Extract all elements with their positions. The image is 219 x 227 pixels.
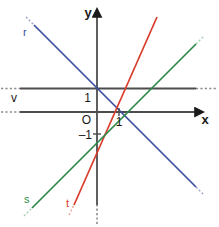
line-s-solid (32, 44, 196, 208)
line-r-dash-start (26, 17, 34, 25)
y-axis-label: y (84, 5, 92, 20)
y-tick-label-one: 1 (84, 91, 91, 105)
origin-label: O (82, 113, 91, 127)
line-label-t: t (66, 197, 69, 209)
x-tick-label-one: 1 (116, 115, 123, 129)
line-r-solid (34, 25, 196, 187)
line-label-s: s (24, 193, 30, 205)
linear-functions-graph: y x 1 O –1 1 r t s v (0, 0, 219, 227)
line-t-solid (74, 17, 157, 205)
line-label-v: v (11, 91, 17, 105)
x-axis-label: x (201, 112, 209, 127)
graph-canvas: y x 1 O –1 1 r t s v (0, 0, 219, 227)
line-s-dash-end (196, 37, 203, 44)
line-r-dash-end (196, 187, 204, 195)
line-label-r: r (23, 26, 27, 38)
line-r (26, 17, 204, 195)
line-t-dash-start (69, 205, 74, 215)
line-s-dash-start (24, 208, 32, 216)
line-s (24, 37, 203, 216)
y-tick-label-minus-one: –1 (79, 128, 93, 142)
